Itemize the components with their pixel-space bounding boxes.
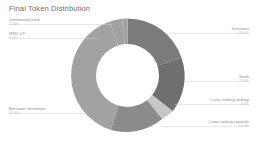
slice-label-luna-staking-airdrop[interactable]: Luna staking airdrop 4.0% <box>211 98 249 107</box>
slice-label-borrower-incentives[interactable]: Borrower incentives 40.0% <box>9 107 46 116</box>
donut-hole <box>96 44 159 107</box>
slice-label-community-fund[interactable]: Community fund 10.0% <box>9 18 40 27</box>
slice-label-luna-staking-rewards[interactable]: Luna staking rewards 10.0% <box>209 120 249 129</box>
slice-label-rwc-lp[interactable]: RWC LP 4.0% <box>9 32 25 41</box>
slice-label-percent: 10.0% <box>9 23 40 27</box>
slice-label-percent: 4.0% <box>211 103 249 107</box>
slice-label-percent: 10.0% <box>209 125 249 129</box>
slice-label-percent: 40.0% <box>9 112 46 116</box>
chart-container: Final Token Distribution <box>0 0 258 152</box>
slice-label-percent: 15.0% <box>239 80 249 84</box>
donut-slices <box>71 18 185 131</box>
slice-label-investors[interactable]: Investors 20.0% <box>232 27 249 36</box>
slice-label-percent: 20.0% <box>232 32 249 36</box>
slice-label-team[interactable]: Team 15.0% <box>239 75 249 84</box>
slice-label-percent: 4.0% <box>9 37 25 41</box>
